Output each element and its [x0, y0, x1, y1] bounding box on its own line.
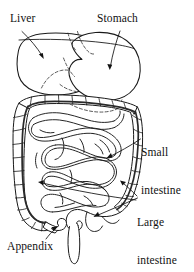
large-intestine-arrowhead-2 — [38, 180, 44, 185]
small-intestine-loop-12b — [87, 182, 106, 192]
small-intestine-organ — [29, 111, 124, 212]
large-intestine-leader-line-3 — [97, 198, 138, 216]
small-intestine-loop-1b — [34, 120, 115, 130]
small-intestine-loop-3b — [31, 125, 92, 138]
small-intestine-loop-21 — [60, 193, 63, 204]
rectum-wall — [68, 224, 80, 264]
small-intestine-arrowhead — [107, 153, 113, 158]
small-intestine-loop-4b — [92, 128, 121, 156]
small-intestine-loop-8 — [91, 166, 114, 185]
small-intestine-loop-18 — [70, 170, 72, 182]
sigmoid-upper-loop — [102, 217, 119, 224]
anatomy-figure: Liver Stomach Small intestine Large inte… — [0, 0, 194, 272]
small-intestine-loop-22 — [84, 196, 93, 205]
label-liver: Liver — [10, 12, 35, 25]
small-intestine-loop-6b — [45, 149, 55, 167]
small-intestine-loop-15 — [55, 203, 75, 208]
small-intestine-loop-1 — [33, 113, 114, 123]
small-intestine-loop-5 — [56, 145, 116, 158]
large-intestine-organ — [13, 95, 143, 264]
small-intestine-loop-20 — [36, 153, 38, 168]
small-intestine-loop-16 — [55, 138, 64, 160]
small-intestine-loop-13 — [46, 194, 106, 207]
label-appendix: Appendix — [7, 240, 53, 253]
ascending-colon-wall — [13, 103, 52, 231]
large-intestine-leader-line-2 — [42, 183, 136, 200]
small-intestine-loop-7 — [47, 160, 112, 170]
label-large-intestine-line2: intestine — [137, 254, 177, 267]
small-intestine-loop-10b — [44, 177, 49, 187]
small-intestine-loop-4 — [93, 134, 116, 156]
label-stomach: Stomach — [97, 12, 138, 25]
small-intestine-loop-9 — [50, 172, 91, 185]
small-intestine-loop-6 — [42, 145, 56, 168]
small-intestine-loop-13b — [41, 196, 53, 213]
small-intestine-loop-19 — [95, 144, 103, 154]
small-intestine-loop-2 — [114, 111, 120, 121]
small-intestine-loop-24 — [40, 130, 54, 133]
label-small-intestine-line1: Small — [141, 146, 181, 159]
label-large-intestine-line1: Large — [137, 216, 177, 229]
label-large-intestine: Large intestine — [137, 191, 177, 272]
